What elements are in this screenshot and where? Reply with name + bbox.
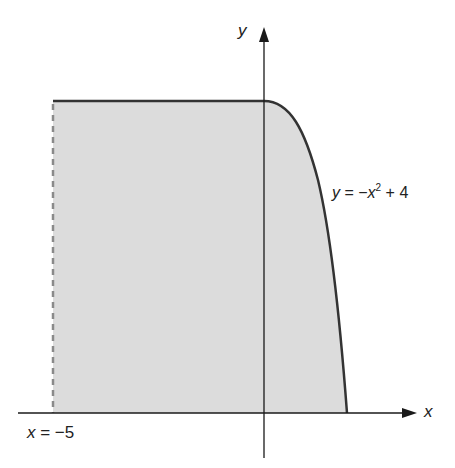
curve-equation-label: y = −x2 + 4 xyxy=(332,184,408,202)
boundary-x: x xyxy=(27,423,36,442)
equation-equals: = − xyxy=(340,184,368,201)
equation-y: y xyxy=(332,184,340,201)
shaded-region xyxy=(53,101,347,413)
y-axis-label: y xyxy=(238,21,247,41)
equation-x: x xyxy=(368,184,376,201)
boundary-label: x = −5 xyxy=(27,423,74,443)
x-axis-label: x xyxy=(424,402,433,422)
y-axis-arrow-icon xyxy=(259,27,269,42)
equation-constant: + 4 xyxy=(381,184,408,201)
diagram-canvas xyxy=(0,0,455,468)
boundary-value: = −5 xyxy=(36,423,75,442)
region-diagram: y x y = −x2 + 4 x = −5 xyxy=(0,0,455,468)
x-axis-arrow-icon xyxy=(402,408,417,418)
